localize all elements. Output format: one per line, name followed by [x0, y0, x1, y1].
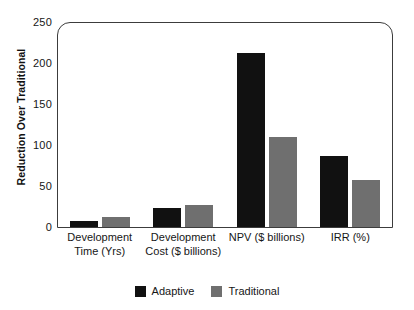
bar-adaptive	[70, 221, 98, 227]
y-tick-label: 50	[0, 181, 52, 192]
bar-adaptive	[320, 156, 348, 227]
bar-adaptive	[153, 208, 181, 227]
y-tick-label: 0	[0, 222, 52, 233]
x-tick-label-line: Development	[142, 231, 226, 245]
bar-traditional	[185, 205, 213, 227]
legend-swatch-icon	[211, 286, 222, 297]
bar-traditional	[269, 137, 297, 227]
y-tick-label: 150	[0, 99, 52, 110]
x-tick-label: NPV ($ billions)	[225, 231, 309, 245]
legend-entry-traditional[interactable]: Traditional	[211, 285, 279, 297]
legend-swatch-icon	[135, 286, 146, 297]
x-tick-label: DevelopmentTime (Yrs)	[58, 231, 142, 258]
y-tick-label: 250	[0, 17, 52, 28]
legend-label: Adaptive	[152, 285, 195, 297]
y-tick-label: 100	[0, 140, 52, 151]
bars-layer	[58, 22, 392, 227]
legend-label: Traditional	[228, 285, 279, 297]
bar-adaptive	[237, 53, 265, 227]
legend-entry-adaptive[interactable]: Adaptive	[135, 285, 195, 297]
chart-legend: AdaptiveTraditional	[0, 283, 414, 299]
bar-group	[58, 22, 142, 227]
x-tick-label-line: Time (Yrs)	[58, 245, 142, 259]
x-tick-label-line: Cost ($ billions)	[142, 245, 226, 259]
x-tick-label-line: IRR (%)	[309, 231, 393, 245]
x-tick-label: DevelopmentCost ($ billions)	[142, 231, 226, 258]
bar-group	[309, 22, 393, 227]
y-tick-label: 200	[0, 58, 52, 69]
x-tick-label-line: NPV ($ billions)	[225, 231, 309, 245]
bar-group	[225, 22, 309, 227]
bar-chart: Reduction Over Traditional 0501001502002…	[0, 0, 414, 310]
x-axis-tick-labels: DevelopmentTime (Yrs)DevelopmentCost ($ …	[58, 231, 392, 271]
bar-traditional	[102, 217, 130, 227]
bar-group	[142, 22, 226, 227]
bar-traditional	[352, 180, 380, 227]
x-tick-label-line: Development	[58, 231, 142, 245]
x-tick-label: IRR (%)	[309, 231, 393, 245]
y-axis-tick-labels: 050100150200250	[0, 0, 52, 310]
